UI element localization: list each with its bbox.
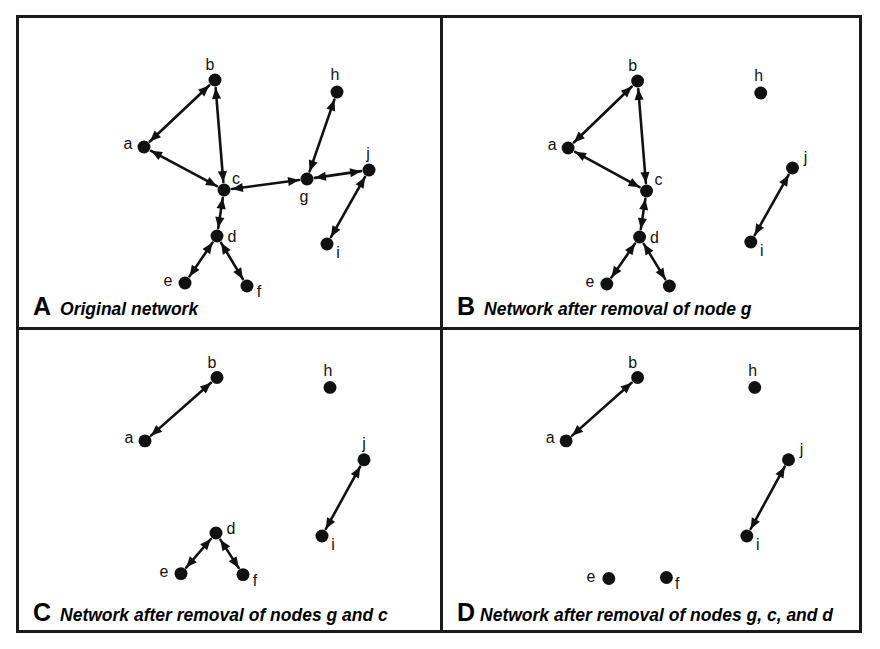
node-h[interactable]: h xyxy=(754,67,767,99)
node-dot[interactable] xyxy=(602,572,615,585)
node-label-c: c xyxy=(232,170,240,187)
node-dot[interactable] xyxy=(786,162,799,175)
node-dot[interactable] xyxy=(600,278,613,291)
panel-b: abcdehij B Network after removal of node… xyxy=(440,18,862,327)
node-b[interactable]: b xyxy=(206,56,222,86)
edge-line xyxy=(574,87,632,143)
node-dot[interactable] xyxy=(633,231,646,244)
node-a[interactable]: a xyxy=(124,135,151,153)
edge-line xyxy=(151,383,211,436)
node-a[interactable]: a xyxy=(548,136,575,154)
node-f[interactable]: f xyxy=(660,571,680,592)
node-j[interactable]: j xyxy=(358,435,371,466)
edge-line xyxy=(310,100,335,172)
node-dot[interactable] xyxy=(640,185,653,198)
node-label-f: f xyxy=(257,283,262,300)
node-dot[interactable] xyxy=(209,74,222,87)
node-dot[interactable] xyxy=(210,527,223,540)
node-f[interactable] xyxy=(663,280,676,293)
node-dot[interactable] xyxy=(663,280,676,293)
edge-layer xyxy=(150,85,365,279)
node-d[interactable]: d xyxy=(210,520,236,539)
node-label-h: h xyxy=(748,362,757,379)
node-layer: abdefhij xyxy=(125,354,371,589)
node-dot[interactable] xyxy=(748,381,761,394)
node-dot[interactable] xyxy=(782,453,795,466)
node-dot[interactable] xyxy=(560,434,573,447)
edge-b-c xyxy=(212,88,227,182)
node-label-g: g xyxy=(300,188,309,205)
node-dot[interactable] xyxy=(754,87,767,100)
node-label-i: i xyxy=(756,536,760,553)
panel-b-caption: B Network after removal of node g xyxy=(457,294,751,319)
node-dot[interactable] xyxy=(358,453,371,466)
node-label-i: i xyxy=(331,536,335,553)
node-dot[interactable] xyxy=(301,173,314,186)
node-dot[interactable] xyxy=(138,141,151,154)
node-dot[interactable] xyxy=(324,381,337,394)
edge-d-e xyxy=(611,244,635,278)
panel-a-caption: A Original network xyxy=(33,294,198,319)
panel-c-caption: C Network after removal of nodes g and c xyxy=(33,600,388,625)
node-i[interactable]: i xyxy=(321,238,340,262)
panel-c: abdefhij C Network after removal of node… xyxy=(19,327,440,633)
node-g[interactable]: g xyxy=(300,173,314,206)
node-f[interactable]: f xyxy=(241,280,262,301)
node-b[interactable]: b xyxy=(208,354,224,384)
node-dot[interactable] xyxy=(331,86,344,99)
node-a[interactable]: a xyxy=(546,429,573,447)
node-label-b: b xyxy=(628,57,637,74)
node-h[interactable]: h xyxy=(748,362,761,394)
node-dot[interactable] xyxy=(175,567,188,580)
figure-frame: abcdefghij A Original network abcdehij B… xyxy=(16,15,862,633)
node-dot[interactable] xyxy=(139,434,152,447)
node-h[interactable]: h xyxy=(331,66,344,98)
node-h[interactable]: h xyxy=(324,362,337,394)
node-i[interactable]: i xyxy=(740,530,759,554)
node-dot[interactable] xyxy=(237,568,250,581)
arrow-head xyxy=(350,168,362,177)
node-e[interactable]: e xyxy=(586,273,614,290)
node-dot[interactable] xyxy=(321,238,334,251)
node-dot[interactable] xyxy=(631,75,644,88)
edge-c-a xyxy=(575,152,639,187)
node-j[interactable]: j xyxy=(782,441,803,466)
panel-c-letter: C xyxy=(33,600,51,625)
node-e[interactable]: e xyxy=(164,272,192,289)
node-layer: abefhij xyxy=(546,354,803,592)
node-b[interactable]: b xyxy=(628,354,644,384)
node-a[interactable]: a xyxy=(125,429,152,447)
node-dot[interactable] xyxy=(562,142,575,155)
node-label-d: d xyxy=(227,520,236,537)
node-dot[interactable] xyxy=(211,230,224,243)
node-j[interactable]: j xyxy=(363,145,376,176)
edge-b-c xyxy=(635,89,650,183)
node-e[interactable]: e xyxy=(160,563,188,580)
panel-c-graph: abdefhij xyxy=(19,330,440,633)
node-b[interactable]: b xyxy=(628,57,644,87)
node-dot[interactable] xyxy=(316,530,329,543)
node-dot[interactable] xyxy=(363,164,376,177)
node-dot[interactable] xyxy=(218,184,231,197)
node-label-j: j xyxy=(803,149,808,166)
node-j[interactable]: j xyxy=(786,149,807,174)
arrow-head xyxy=(203,243,213,255)
node-d[interactable]: d xyxy=(633,229,659,246)
node-label-e: e xyxy=(587,568,596,585)
panel-d-caption-text: Network after removal of nodes g, c, and… xyxy=(480,607,833,625)
arrow-head xyxy=(625,244,635,256)
node-label-d: d xyxy=(228,228,237,245)
node-dot[interactable] xyxy=(179,277,192,290)
node-e[interactable]: e xyxy=(587,568,616,585)
node-label-j: j xyxy=(365,145,370,162)
node-dot[interactable] xyxy=(740,530,753,543)
node-dot[interactable] xyxy=(211,371,224,384)
node-dot[interactable] xyxy=(241,280,254,293)
node-dot[interactable] xyxy=(660,571,673,584)
node-i[interactable]: i xyxy=(744,236,763,260)
node-dot[interactable] xyxy=(744,236,757,249)
node-f[interactable]: f xyxy=(237,568,258,589)
node-d[interactable]: d xyxy=(211,228,237,245)
node-dot[interactable] xyxy=(631,371,644,384)
node-i[interactable]: i xyxy=(316,530,335,554)
